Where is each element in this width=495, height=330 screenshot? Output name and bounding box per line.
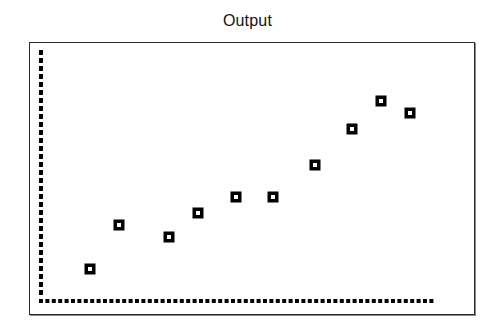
y-axis-dash xyxy=(39,242,43,247)
x-axis-dash xyxy=(250,299,254,303)
x-axis-dash xyxy=(314,299,318,303)
x-axis-dash xyxy=(269,299,273,303)
x-axis-dash xyxy=(167,299,171,303)
x-axis-dash xyxy=(212,299,216,303)
x-axis-dash xyxy=(365,299,369,303)
x-axis-dash xyxy=(52,299,56,303)
y-axis-dash xyxy=(39,194,43,199)
data-point-hole xyxy=(379,99,383,103)
x-axis-dash xyxy=(218,299,222,303)
x-axis-dash xyxy=(65,299,69,303)
y-axis-dash xyxy=(39,178,43,183)
x-axis-dash xyxy=(141,299,145,303)
y-axis-dash xyxy=(39,290,43,295)
x-axis-dash xyxy=(103,299,107,303)
y-axis-dash xyxy=(39,210,43,215)
x-axis-dash xyxy=(71,299,75,303)
x-axis-dash xyxy=(346,299,350,303)
x-axis-dash xyxy=(161,299,165,303)
y-axis-dash xyxy=(39,74,43,79)
x-axis-dash xyxy=(180,299,184,303)
y-axis-dashed xyxy=(39,50,43,295)
scatter-plot xyxy=(0,0,495,330)
data-point-hole xyxy=(271,195,275,199)
x-axis-dash xyxy=(385,299,389,303)
x-axis-dash xyxy=(417,299,421,303)
data-point-hole xyxy=(88,267,92,271)
y-axis-dash xyxy=(39,106,43,111)
x-axis-dash xyxy=(327,299,331,303)
x-axis-dash xyxy=(109,299,113,303)
y-axis-dash xyxy=(39,130,43,135)
x-axis-dash xyxy=(282,299,286,303)
x-axis-dash xyxy=(257,299,261,303)
x-axis-dash xyxy=(359,299,363,303)
x-axis-dash xyxy=(84,299,88,303)
x-axis-dash xyxy=(289,299,293,303)
y-axis-dash xyxy=(39,138,43,143)
x-axis-dash xyxy=(404,299,408,303)
y-axis-dash xyxy=(39,186,43,191)
y-axis-dash xyxy=(39,114,43,119)
x-axis-dash xyxy=(378,299,382,303)
x-axis-dash xyxy=(244,299,248,303)
x-axis-dash xyxy=(45,299,49,303)
x-axis-dash xyxy=(129,299,133,303)
x-axis-dash xyxy=(193,299,197,303)
y-axis-dash xyxy=(39,66,43,71)
x-axis-dash xyxy=(173,299,177,303)
y-axis-dash xyxy=(39,122,43,127)
x-axis-dash xyxy=(154,299,158,303)
x-axis-dash xyxy=(39,299,43,303)
x-axis-dash xyxy=(97,299,101,303)
x-axis-dash xyxy=(116,299,120,303)
data-point-hole xyxy=(167,235,171,239)
data-point-hole xyxy=(117,223,121,227)
x-axis-dash xyxy=(423,299,427,303)
x-axis-dash xyxy=(295,299,299,303)
data-point-hole xyxy=(350,127,354,131)
x-axis-dash xyxy=(237,299,241,303)
y-axis-dash xyxy=(39,274,43,279)
y-axis-dash xyxy=(39,154,43,159)
x-axis-dash xyxy=(263,299,267,303)
y-axis-dash xyxy=(39,218,43,223)
data-point-hole xyxy=(234,195,238,199)
y-axis-dash xyxy=(39,202,43,207)
data-point-hole xyxy=(196,211,200,215)
y-axis-dash xyxy=(39,282,43,287)
data-point-hole xyxy=(408,111,412,115)
x-axis-dash xyxy=(199,299,203,303)
y-axis-dash xyxy=(39,162,43,167)
x-axis-dashed xyxy=(39,299,433,303)
y-axis-dash xyxy=(39,146,43,151)
y-axis-dash xyxy=(39,82,43,87)
y-axis-dash xyxy=(39,234,43,239)
y-axis-dash xyxy=(39,170,43,175)
x-axis-dash xyxy=(308,299,312,303)
x-axis-dash xyxy=(276,299,280,303)
x-axis-dash xyxy=(340,299,344,303)
x-axis-dash xyxy=(372,299,376,303)
x-axis-dash xyxy=(391,299,395,303)
x-axis-dash xyxy=(90,299,94,303)
x-axis-dash xyxy=(148,299,152,303)
y-axis-dash xyxy=(39,226,43,231)
x-axis-dash xyxy=(429,299,433,303)
x-axis-dash xyxy=(301,299,305,303)
x-axis-dash xyxy=(353,299,357,303)
x-axis-dash xyxy=(122,299,126,303)
x-axis-dash xyxy=(333,299,337,303)
x-axis-dash xyxy=(410,299,414,303)
y-axis-dash xyxy=(39,258,43,263)
x-axis-dash xyxy=(58,299,62,303)
x-axis-dash xyxy=(135,299,139,303)
x-axis-dash xyxy=(77,299,81,303)
y-axis-dash xyxy=(39,266,43,271)
x-axis-dash xyxy=(186,299,190,303)
x-axis-dash xyxy=(321,299,325,303)
x-axis-dash xyxy=(225,299,229,303)
y-axis-dash xyxy=(39,50,43,55)
y-axis-dash xyxy=(39,250,43,255)
data-points xyxy=(85,96,416,275)
